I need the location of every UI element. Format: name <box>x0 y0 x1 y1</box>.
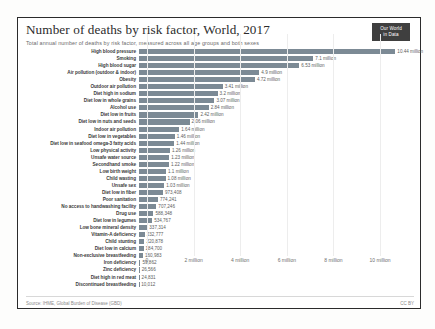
gridline <box>194 34 195 256</box>
bar-row[interactable]: Child stunting220,878 <box>26 238 414 245</box>
source-note: Source: IHME, Global Burden of Disease (… <box>26 301 122 306</box>
bar-value-label: 1.03 million <box>164 182 189 189</box>
bar-track: 1.23 million <box>139 154 414 161</box>
bar-row[interactable]: Air pollution (outdoor & indoor)4.9 mill… <box>26 69 414 76</box>
bar[interactable] <box>139 197 158 202</box>
bar-row[interactable]: Diet low in fruits2.42 million <box>26 111 414 118</box>
bar-row[interactable]: Unsafe sex1.03 million <box>26 182 414 189</box>
bar-category-label: Air pollution (outdoor & indoor) <box>26 69 139 76</box>
bar-track: 588,348 <box>139 210 414 217</box>
bar-category-label: Child stunting <box>26 238 139 245</box>
bar-row[interactable]: Drug use588,348 <box>26 210 414 217</box>
screenshot-page: Number of deaths by risk factor, World, … <box>0 0 435 329</box>
bar[interactable] <box>139 91 218 96</box>
bar-row[interactable]: Alcohol use2.84 million <box>26 104 414 111</box>
bar-category-label: Non-exclusive breastfeeding <box>26 252 139 259</box>
bar-row[interactable]: Vitamin-A deficiency232,777 <box>26 231 414 238</box>
bar-track: 1.22 million <box>139 161 414 168</box>
license-note[interactable]: CC BY <box>400 301 414 306</box>
bar-row[interactable]: Indoor air pollution1.64 million <box>26 126 414 133</box>
bar-track: 1.08 million <box>139 175 414 182</box>
bar-value-label: 10.44 million <box>395 48 423 55</box>
gridline <box>380 34 381 256</box>
bar[interactable] <box>139 176 166 181</box>
bar-value-label: 1.64 million <box>179 126 204 133</box>
bar[interactable] <box>139 183 164 188</box>
gridline <box>147 34 148 256</box>
bar-row[interactable]: Diet high in red meat24,831 <box>26 274 414 281</box>
bar-row[interactable]: Low physical activity1.26 million <box>26 147 414 154</box>
bar-value-label: 1.26 million <box>170 147 195 154</box>
bar-row[interactable]: High blood pressure10.44 million <box>26 48 414 55</box>
bar-row[interactable]: High blood sugar6.53 million <box>26 62 414 69</box>
bar-category-label: Unsafe water source <box>26 154 139 161</box>
owid-logo[interactable]: Our World in Data <box>372 23 410 41</box>
bar-category-label: Diet low in vegetables <box>26 133 139 140</box>
bar-row[interactable]: Obesity4.72 million <box>26 76 414 83</box>
bar-row[interactable]: Diet low in whole grains3.07 million <box>26 97 414 104</box>
bar-row[interactable]: Diet low in seafood omega-3 fatty acids1… <box>26 140 414 147</box>
bar-row[interactable]: Poor sanitation774,241 <box>26 196 414 203</box>
gridline <box>287 34 288 256</box>
bar-category-label: Diet high in red meat <box>26 274 139 281</box>
bar-value-label: 774,241 <box>158 196 177 203</box>
bar[interactable] <box>139 49 395 54</box>
bar-track: 337,314 <box>139 224 414 231</box>
bar[interactable] <box>139 218 152 223</box>
bar[interactable] <box>139 190 163 195</box>
x-axis-tick-label: 0 <box>146 257 149 263</box>
bar-track: 973,408 <box>139 189 414 196</box>
bar-row[interactable]: Low birth weight1.1 million <box>26 168 414 175</box>
bar-value-label: 1.44 million <box>174 140 199 147</box>
bar-track: 774,241 <box>139 196 414 203</box>
bar-row[interactable]: Diet low in calcium184,700 <box>26 245 414 252</box>
bar[interactable] <box>139 162 169 167</box>
bar-value-label: 1.46 million <box>175 133 200 140</box>
bar-category-label: High blood pressure <box>26 48 139 55</box>
bar-track: 4.72 million <box>139 76 414 83</box>
bar[interactable] <box>139 134 175 139</box>
bar-value-label: 1.08 million <box>166 175 191 182</box>
bar-row[interactable]: Child wasting1.08 million <box>26 175 414 182</box>
bar-category-label: Low birth weight <box>26 168 139 175</box>
bar-category-label: Diet low in calcium <box>26 245 139 252</box>
bar-row[interactable]: Outdoor air pollution3.41 million <box>26 83 414 90</box>
page-title: Number of deaths by risk factor, World, … <box>26 22 412 38</box>
bar-track: 232,777 <box>139 231 414 238</box>
bar-row[interactable]: Diet low in nuts and seeds2.06 million <box>26 118 414 125</box>
bar-row[interactable]: Low bone mineral density337,314 <box>26 224 414 231</box>
bar-row[interactable]: Secondhand smoke1.22 million <box>26 161 414 168</box>
bar[interactable] <box>139 84 223 89</box>
bar[interactable] <box>139 169 166 174</box>
bar[interactable] <box>139 98 214 103</box>
bar-row[interactable]: Diet high in sodium3.2 million <box>26 90 414 97</box>
x-axis-tick-label: 6 million <box>278 257 296 263</box>
bar[interactable] <box>139 70 259 75</box>
bar-row[interactable]: Smoking7.1 million <box>26 55 414 62</box>
bar-value-label: 24,831 <box>140 274 156 281</box>
x-axis-tick-label: 4 million <box>231 257 249 263</box>
bar[interactable] <box>139 141 174 146</box>
bar-row[interactable]: Diet low in fiber973,408 <box>26 189 414 196</box>
bar-value-label: 3.07 million <box>214 97 239 104</box>
bar[interactable] <box>139 63 299 68</box>
bar-row[interactable]: No access to handwashing facility707,246 <box>26 203 414 210</box>
bar-row[interactable]: Unsafe water source1.23 million <box>26 154 414 161</box>
bar-track: 220,878 <box>139 238 414 245</box>
bar-value-label: 6.53 million <box>299 62 324 69</box>
bar[interactable] <box>139 155 169 160</box>
bar-track: 1.44 million <box>139 140 414 147</box>
bar[interactable] <box>139 148 170 153</box>
bar-category-label: Secondhand smoke <box>26 161 139 168</box>
bar-category-label: Zinc deficiency <box>26 266 139 273</box>
bar-row[interactable]: Diet low in vegetables1.46 million <box>26 133 414 140</box>
bar[interactable] <box>139 127 179 132</box>
bar-row[interactable]: Discontinued breastfeeding10,012 <box>26 281 414 288</box>
bar-category-label: Low physical activity <box>26 147 139 154</box>
bar-track: 1.46 million <box>139 133 414 140</box>
bar-row[interactable]: Diet low in legumes534,767 <box>26 217 414 224</box>
bar-value-label: 3.41 million <box>223 83 248 90</box>
bar[interactable] <box>139 105 209 110</box>
bar[interactable] <box>139 77 255 82</box>
bar-category-label: Diet low in fiber <box>26 189 139 196</box>
